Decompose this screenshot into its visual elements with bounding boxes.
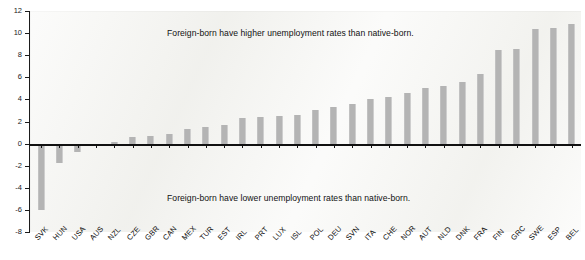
x-tick-mark xyxy=(78,144,79,148)
x-tick-mark xyxy=(169,144,170,148)
x-tick-mark xyxy=(444,144,445,148)
bar xyxy=(330,107,337,143)
y-tick-label: -8 xyxy=(15,228,22,236)
x-tick-mark xyxy=(242,144,243,148)
y-tick-label: 12 xyxy=(14,7,22,15)
x-tick-mark xyxy=(133,144,134,148)
bar xyxy=(477,74,484,144)
bar xyxy=(404,93,411,144)
y-tick-label: 4 xyxy=(18,95,22,103)
x-tick-mark xyxy=(517,144,518,148)
x-tick-mark xyxy=(572,144,573,148)
bar xyxy=(385,97,392,143)
x-tick-mark xyxy=(352,144,353,148)
bar xyxy=(202,127,209,144)
x-tick-mark xyxy=(462,144,463,148)
x-tick-mark xyxy=(407,144,408,148)
y-tick-label: -6 xyxy=(15,206,22,214)
x-tick-mark xyxy=(535,144,536,148)
y-tick-label: 10 xyxy=(14,29,22,37)
bar xyxy=(422,88,429,143)
bar xyxy=(349,104,356,144)
bar xyxy=(294,115,301,144)
bar xyxy=(495,50,502,144)
bar xyxy=(532,29,539,144)
y-tick-label: 6 xyxy=(18,73,22,81)
x-tick-mark xyxy=(59,144,60,148)
bar xyxy=(459,82,466,144)
x-tick-mark xyxy=(114,144,115,148)
x-tick-mark xyxy=(316,144,317,148)
x-tick-mark xyxy=(297,144,298,148)
y-tick-mark xyxy=(25,232,30,233)
x-tick-mark xyxy=(371,144,372,148)
bar xyxy=(568,24,575,143)
x-tick-mark xyxy=(334,144,335,148)
x-tick-mark xyxy=(206,144,207,148)
y-tick-label: 2 xyxy=(18,118,22,126)
y-tick-label: -4 xyxy=(15,184,22,192)
bar xyxy=(312,110,319,143)
x-tick-mark xyxy=(554,144,555,148)
bar xyxy=(147,136,154,144)
bar xyxy=(239,118,246,143)
unemployment-gap-bar-chart: 121086420-2-4-6-8 SVKHUNUSAAUSNZLCZEGBRC… xyxy=(0,0,585,260)
bar xyxy=(129,137,136,144)
x-tick-mark xyxy=(41,144,42,148)
y-tick-label: 8 xyxy=(18,51,22,59)
bar xyxy=(166,134,173,144)
y-tick-label: 0 xyxy=(18,140,22,148)
bar xyxy=(184,129,191,143)
bar xyxy=(257,117,264,144)
bar xyxy=(276,116,283,144)
bar xyxy=(550,28,557,144)
x-tick-mark xyxy=(151,144,152,148)
x-tick-mark xyxy=(425,144,426,148)
x-tick-mark xyxy=(224,144,225,148)
x-tick-mark xyxy=(480,144,481,148)
x-tick-mark xyxy=(188,144,189,148)
x-tick-mark xyxy=(389,144,390,148)
x-tick-mark xyxy=(261,144,262,148)
bar xyxy=(221,125,228,144)
x-tick-mark xyxy=(96,144,97,148)
bar xyxy=(440,86,447,143)
x-tick-mark xyxy=(499,144,500,148)
bar xyxy=(513,49,520,144)
y-tick-label: -2 xyxy=(15,162,22,170)
bar xyxy=(38,144,45,210)
x-tick-mark xyxy=(279,144,280,148)
higher-rates-note: Foreign-born have higher unemployment ra… xyxy=(167,28,414,38)
y-axis-line xyxy=(29,11,30,232)
lower-rates-note: Foreign-born have lower unemployment rat… xyxy=(167,193,410,203)
bar xyxy=(367,99,374,143)
